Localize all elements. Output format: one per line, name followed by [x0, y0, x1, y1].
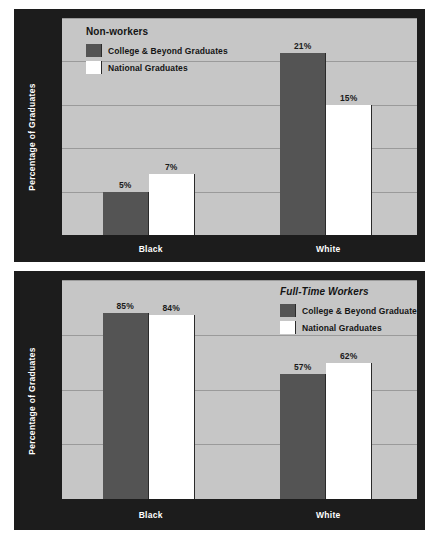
legend-swatch-national	[86, 61, 102, 74]
bar: 21%	[280, 53, 326, 235]
legend-item-national: National Graduates	[86, 61, 228, 74]
y-axis-title-fulltime: Percentage of Graduates	[27, 347, 37, 455]
plot-area-nonworkers: Non-workers College & Beyond Graduates N…	[62, 18, 417, 235]
bar: 15%	[326, 105, 372, 235]
bar: 5%	[103, 192, 149, 235]
bar-value-label: 84%	[162, 303, 180, 313]
legend-label-college-beyond: College & Beyond Graduates	[108, 46, 228, 56]
bar: 62%	[326, 363, 372, 499]
bar-value-label: 5%	[119, 180, 132, 190]
legend-nonworkers: Non-workers College & Beyond Graduates N…	[86, 26, 228, 78]
chart-title-fulltime: Full-Time Workers	[280, 286, 417, 297]
legend-label-national: National Graduates	[108, 63, 188, 73]
x-axis-tick-black: Black	[139, 510, 163, 520]
chart-page: Percentage of Graduates Non-workers Coll…	[0, 0, 438, 540]
bar: 85%	[103, 313, 149, 499]
bar-value-label: 15%	[340, 93, 358, 103]
bar: 84%	[149, 315, 195, 499]
legend-item-college-beyond: College & Beyond Graduates	[86, 44, 228, 57]
x-axis-tick-white: White	[316, 244, 341, 254]
x-axis-tick-black: Black	[139, 244, 163, 254]
plot-area-fulltime: Full-Time Workers College & Beyond Gradu…	[62, 280, 417, 499]
legend-label-national: National Graduates	[302, 323, 382, 333]
legend-swatch-national	[280, 321, 296, 334]
bar-value-label: 62%	[340, 351, 358, 361]
chart-panel-nonworkers: Percentage of Graduates Non-workers Coll…	[14, 9, 425, 262]
x-axis-tick-white: White	[316, 510, 341, 520]
legend-fulltime: Full-Time Workers College & Beyond Gradu…	[280, 286, 417, 338]
legend-item-college-beyond: College & Beyond Graduates	[280, 304, 417, 317]
gridline	[62, 280, 417, 281]
bar-value-label: 7%	[165, 162, 178, 172]
legend-swatch-college-beyond	[280, 304, 296, 317]
legend-swatch-college-beyond	[86, 44, 102, 57]
legend-label-college-beyond: College & Beyond Graduates	[302, 306, 417, 316]
bar-value-label: 85%	[116, 301, 134, 311]
chart-panel-fulltime: Percentage of Graduates Full-Time Worker…	[14, 271, 425, 530]
chart-title-nonworkers: Non-workers	[86, 26, 228, 37]
bar: 57%	[280, 374, 326, 499]
gridline	[62, 18, 417, 19]
y-axis-title-nonworkers: Percentage of Graduates	[27, 83, 37, 191]
bar-value-label: 21%	[294, 41, 312, 51]
legend-item-national: National Graduates	[280, 321, 417, 334]
bar: 7%	[149, 174, 195, 235]
bar-value-label: 57%	[294, 362, 312, 372]
